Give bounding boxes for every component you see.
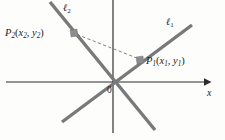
point-marker-p1: [136, 56, 144, 64]
x-axis-arrowhead: [204, 78, 212, 86]
label-p1-close-paren: ): [181, 55, 185, 66]
label-p2-close-paren: ): [40, 27, 44, 38]
point-marker-p2: [70, 29, 78, 37]
label-line-ell-2: ℓ2: [63, 3, 71, 15]
label-l1-subscript: 1: [170, 21, 174, 29]
geometry-figure: P2(x2, y2) P1(x1, y1) ℓ2 ℓ1 0 x: [0, 0, 225, 140]
label-origin: 0: [107, 86, 112, 96]
label-l2-subscript: 2: [67, 7, 71, 15]
figure-canvas: [0, 0, 225, 140]
label-x-axis: x: [207, 88, 211, 98]
label-point-p1: P1(x1, y1): [146, 56, 185, 68]
label-point-p2: P2(x2, y2): [5, 28, 44, 40]
label-line-ell-1: ℓ1: [166, 17, 174, 29]
